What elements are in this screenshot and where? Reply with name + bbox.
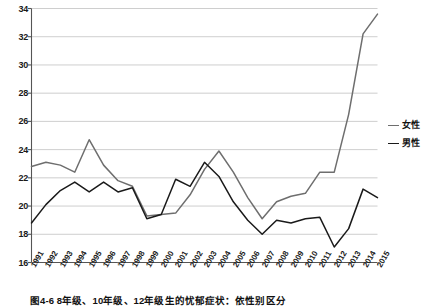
legend-item: 男性 [388, 134, 436, 152]
x-axis-tick-label: 2007 [261, 250, 277, 269]
x-axis-tick-label: 2008 [275, 250, 291, 269]
legend-item-label: 男性 [402, 139, 420, 148]
x-axis-tick-label: 2000 [160, 250, 176, 269]
figure-container: 16182022242628303234 1991199219931994199… [0, 0, 436, 306]
x-axis-tick-label: 2013 [347, 250, 363, 269]
x-axis-tick-label: 1994 [73, 250, 89, 269]
x-axis-tick-label: 2009 [290, 250, 306, 269]
x-axis-tick-label: 2012 [333, 250, 349, 269]
line-swatch-icon [388, 125, 399, 126]
x-axis-tick-labels: 1991199219931994199519961997199819992000… [0, 0, 436, 306]
x-axis-tick-label: 1999 [145, 250, 161, 269]
x-axis-tick-label: 2006 [246, 250, 262, 269]
x-axis-tick-label: 2010 [304, 250, 320, 269]
x-axis-tick-label: 2001 [174, 250, 190, 269]
x-axis-tick-label: 1992 [44, 250, 60, 269]
x-axis-tick-label: 2015 [376, 250, 392, 269]
chart-legend: 女性男性 [388, 116, 436, 152]
x-axis-tick-label: 1993 [59, 250, 75, 269]
x-axis-tick-label: 1995 [88, 250, 104, 269]
line-swatch-icon [388, 143, 399, 144]
legend-item-label: 女性 [402, 121, 420, 130]
x-axis-tick-label: 2011 [318, 250, 333, 269]
figure-caption: 图4-6 8年级、10年级、12年级生的忧郁症状：依性别区分 [30, 293, 286, 306]
legend-item: 女性 [388, 116, 436, 134]
x-axis-tick-label: 1997 [117, 250, 133, 269]
x-axis-tick-label: 2014 [362, 250, 378, 269]
x-axis-tick-label: 1998 [131, 250, 147, 269]
x-axis-tick-label: 2005 [232, 250, 248, 269]
x-axis-tick-label: 2002 [189, 250, 205, 269]
x-axis-tick-label: 2003 [203, 250, 219, 269]
x-axis-tick-label: 1991 [30, 250, 46, 269]
x-axis-tick-label: 1996 [102, 250, 118, 269]
x-axis-tick-label: 2004 [217, 250, 233, 269]
